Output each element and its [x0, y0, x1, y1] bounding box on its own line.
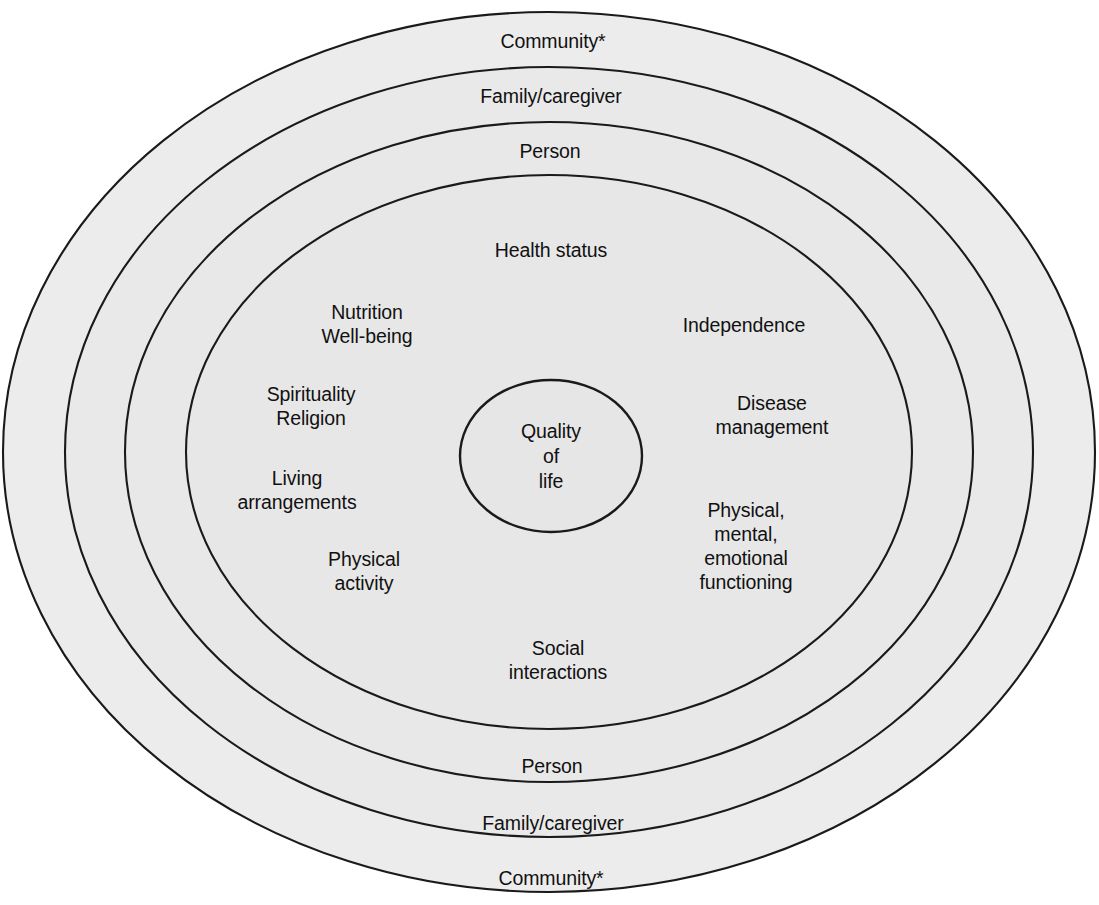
label-quality-of-life: Quality of life [521, 419, 581, 494]
label-spirituality-religion: Spirituality Religion [267, 382, 356, 430]
label-living-arrangements: Living arrangements [237, 466, 356, 514]
label-disease-management: Disease management [716, 391, 829, 439]
label-social-interactions: Social interactions [509, 636, 608, 684]
label-health-status: Health status [495, 238, 608, 262]
label-nutrition-wellbeing: Nutrition Well-being [322, 300, 413, 348]
label-family-caregiver-top: Family/caregiver [480, 84, 621, 108]
label-person-top: Person [519, 139, 580, 163]
label-community-top: Community* [500, 29, 605, 53]
label-independence: Independence [683, 313, 805, 337]
label-community-bottom: Community* [498, 866, 603, 890]
label-family-caregiver-bottom: Family/caregiver [482, 811, 623, 835]
label-person-bottom: Person [521, 754, 582, 778]
label-physical-mental-emotional-functioning: Physical, mental, emotional functioning [699, 498, 792, 594]
label-physical-activity: Physical activity [328, 547, 400, 595]
quality-of-life-diagram: Community* Family/caregiver Person Healt… [0, 0, 1099, 905]
